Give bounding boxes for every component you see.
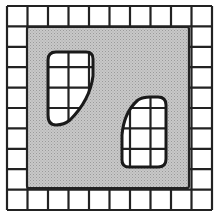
diagram-canvas bbox=[0, 0, 218, 218]
grid-diagram bbox=[0, 0, 218, 218]
